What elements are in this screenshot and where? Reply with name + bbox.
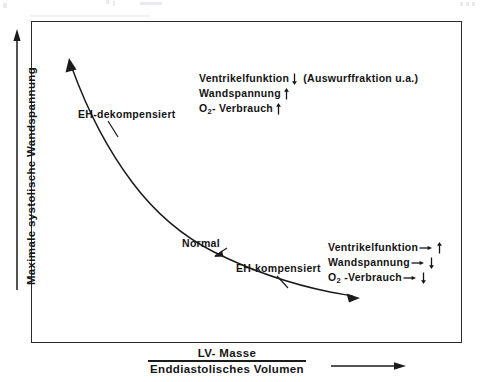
- up-arrow-icon: [274, 103, 283, 115]
- down-arrow-icon: [290, 73, 299, 85]
- curve-label-normal: Normal: [182, 237, 220, 249]
- decompensated-annotation: Ventrikelfunktion (Auswurffraktion u.a.)…: [199, 71, 418, 117]
- annotation-label: O2 -Verbrauch: [328, 270, 402, 286]
- annotation-label: Wandspannung: [328, 255, 410, 270]
- annotation-line-o2-verbrauch: O2 -Verbrauch: [328, 270, 445, 286]
- annotation-label: Ventrikelfunktion: [328, 240, 418, 255]
- annotation-label: Wandspannung: [199, 86, 281, 101]
- compensated-annotation: Ventrikelfunktion Wandspannung O2 -Verbr: [328, 240, 445, 286]
- annotation-line-wandspannung: Wandspannung: [199, 86, 418, 101]
- right-arrow-icon: [419, 242, 433, 254]
- annotation-suffix: (Auswurffraktion u.a.): [303, 71, 418, 86]
- x-axis-arrow-icon: [330, 357, 408, 373]
- x-axis-numerator: LV- Masse: [148, 347, 306, 360]
- annotation-line-ventrikelfunktion: Ventrikelfunktion: [328, 240, 445, 255]
- x-axis-denominator: Enddiastolisches Volumen: [148, 362, 306, 375]
- annotation-label: O2- Verbrauch: [199, 101, 273, 117]
- curve-layer: [0, 0, 481, 382]
- up-arrow-icon: [435, 242, 444, 254]
- up-arrow-icon: [282, 88, 291, 100]
- right-arrow-icon: [411, 257, 425, 269]
- annotation-line-ventrikelfunktion: Ventrikelfunktion (Auswurffraktion u.a.): [199, 71, 418, 86]
- leader-eh-kompensiert: [277, 276, 288, 288]
- curve-label-eh-dekompensiert: EH-dekompensiert: [78, 108, 176, 120]
- down-arrow-icon: [427, 257, 436, 269]
- leader-eh-dekompensiert: [108, 121, 118, 137]
- x-axis-label: LV- Masse Enddiastolisches Volumen: [148, 347, 306, 375]
- figure-container: Maximale systolische Wandspannung EH-dek…: [0, 0, 481, 382]
- annotation-label: Ventrikelfunktion: [199, 71, 289, 86]
- curve-start-arrowhead: [66, 58, 77, 73]
- annotation-line-wandspannung: Wandspannung: [328, 255, 445, 270]
- curve-label-eh-kompensiert: EH-kompensiert: [236, 262, 321, 274]
- down-arrow-icon: [419, 272, 428, 284]
- right-arrow-icon: [403, 272, 417, 284]
- curve-end-arrowhead: [347, 294, 361, 303]
- annotation-line-o2-verbrauch: O2- Verbrauch: [199, 101, 418, 117]
